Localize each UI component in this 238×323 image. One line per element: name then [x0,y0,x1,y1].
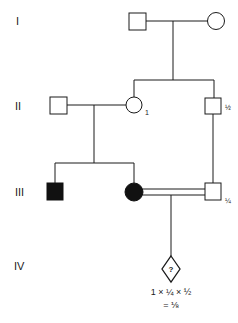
annotation-ii-wife: 1 [145,109,149,116]
generation-label-ii: II [15,100,21,112]
annotation-ii-son: ½ [225,104,231,111]
generation-label-i: I [16,15,19,27]
male-symbol-i-father [129,13,146,30]
annotation-iii-cousin: ¼ [225,197,231,204]
female-symbol-iii-daughter-affected [125,183,143,201]
female-symbol-ii-wife [126,97,142,113]
unknown-status-question-mark: ? [169,265,174,274]
male-symbol-ii-husband [50,97,67,114]
female-symbol-i-mother [208,13,225,30]
male-symbol-ii-son [205,98,221,114]
risk-calculation-line-1: 1 × ¼ × ½ [151,287,192,297]
male-symbol-iii-son-affected [47,183,63,200]
risk-calculation-result: = ⅛ [163,300,179,310]
pedigree-diagram: I II III IV [0,0,238,323]
generation-label-iv: IV [14,260,25,272]
generation-label-iii: III [15,186,24,198]
male-symbol-iii-cousin [205,183,221,200]
